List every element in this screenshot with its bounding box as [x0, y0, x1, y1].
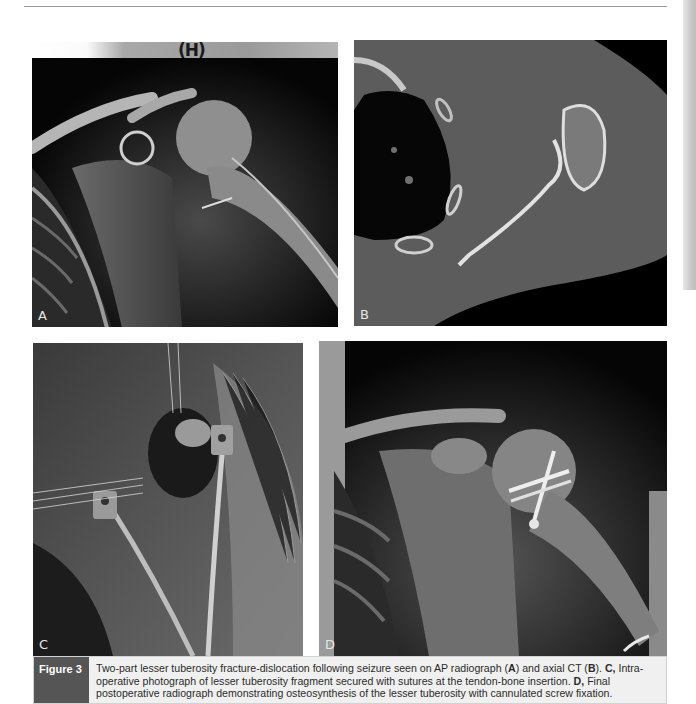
figure-panel-a: (H) A [32, 42, 338, 327]
header-rule [24, 6, 667, 7]
ap-radiograph-image [32, 58, 338, 327]
caption-segment: Two-part lesser tuberosity fracture-disl… [96, 662, 508, 674]
figure-caption: Figure 3 Two-part lesser tuberosity frac… [33, 656, 667, 704]
figure-label: Figure 3 [34, 657, 89, 703]
postoperative-radiograph-image [319, 341, 667, 656]
panel-letter-c: C [39, 637, 48, 652]
figure-panel-c: C [33, 343, 303, 656]
intraoperative-photo [33, 343, 303, 656]
caption-ref-b: B [588, 662, 596, 674]
figure-panel-b: B [354, 40, 667, 326]
caption-text: Two-part lesser tuberosity fracture-disl… [89, 657, 666, 703]
caption-ref-d: D, [574, 675, 585, 687]
axial-ct-image [354, 40, 667, 326]
caption-segment: ). [596, 662, 605, 674]
figure-panel-d: D [319, 341, 667, 656]
caption-ref-a: A [508, 662, 516, 674]
caption-ref-c: C, [605, 662, 616, 674]
caption-segment: ) and axial CT ( [516, 662, 588, 674]
panel-letter-d: D [325, 637, 335, 652]
page-binding-edge [683, 0, 696, 290]
panel-letter-a: A [38, 308, 47, 323]
panel-letter-b: B [360, 307, 369, 322]
